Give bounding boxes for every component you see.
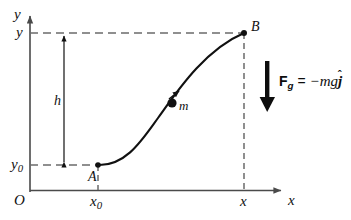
force-symbol: F (279, 73, 288, 89)
point-a-label: A (88, 170, 97, 184)
tick-label-x-base: x (240, 193, 247, 209)
force-unit-vector: ˆj (338, 74, 342, 89)
tick-label-x: x (240, 194, 247, 209)
particle-marker (167, 98, 176, 107)
tick-label-y0-subscript: 0 (18, 162, 23, 174)
point-b-label: B (251, 20, 260, 34)
point-a-marker (95, 162, 101, 168)
tick-label-x0: x0 (90, 194, 102, 211)
physics-diagram-figure: y x O y y0 x0 x h A B m Fg = −mgˆj (0, 0, 351, 220)
tick-label-y0: y0 (11, 157, 23, 174)
force-equals: = (297, 73, 305, 89)
tick-label-x0-subscript: 0 (97, 199, 102, 211)
gravity-force-equation: Fg = −mgˆj (279, 74, 342, 91)
tick-label-x0-base: x (90, 193, 97, 209)
hat-accent: ˆ (338, 69, 342, 81)
gravity-force-arrow (260, 61, 275, 112)
force-expression: −mg (310, 73, 338, 89)
force-subscript: g (288, 80, 294, 91)
tick-label-y0-base: y (11, 156, 18, 172)
diagram-canvas (0, 0, 351, 220)
height-label: h (54, 94, 61, 108)
point-b-marker (241, 30, 247, 36)
x-axis-label: x (288, 193, 295, 208)
y-axis-label: y (14, 7, 21, 22)
tick-label-y: y (16, 25, 23, 40)
origin-label: O (14, 193, 25, 208)
tick-label-y-base: y (16, 24, 23, 40)
particle-label: m (179, 99, 188, 112)
motion-direction-arrow (169, 91, 179, 99)
